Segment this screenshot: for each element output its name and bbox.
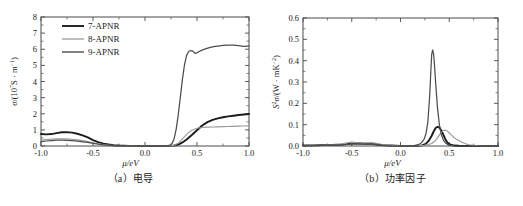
panel-a-conductivity: -1.0-0.50.00.51.0012345678σ/(107S · m−1)… (0, 0, 261, 206)
y-tick-label: 0 (33, 141, 37, 151)
y-tick-label: 2 (33, 109, 37, 119)
y-tick-label: 7 (33, 28, 37, 38)
y-tick-label: 0.0 (288, 141, 299, 151)
plot-frame (303, 18, 498, 146)
x-tick-label: -0.5 (86, 148, 99, 158)
y-tick-label: 6 (33, 44, 37, 54)
y-axis-label: σ/(107S · m−1) (9, 57, 19, 106)
x-axis-label-b: μ/eV (262, 158, 523, 168)
x-axis-label-a: μ/eV (0, 158, 261, 168)
y-tick-label: 0.5 (288, 34, 299, 44)
svg-text:σ/(107S · m−1): σ/(107S · m−1) (9, 57, 19, 106)
y-tick-label: 0.3 (288, 77, 299, 87)
y-tick-label: 5 (33, 60, 37, 70)
panel-caption-b: （b）功率因子 (262, 170, 523, 185)
y-tick-label: 0.4 (288, 56, 299, 66)
y-tick-label: 0.2 (288, 98, 299, 108)
x-tick-label: 1.0 (493, 148, 504, 158)
x-tick-label: 0.5 (444, 148, 455, 158)
x-tick-label: 0.0 (395, 148, 406, 158)
y-tick-label: 0.6 (288, 13, 299, 23)
series-curve-9-apnr (41, 45, 249, 146)
y-tick-label: 1 (33, 125, 37, 135)
legend-label-7-apnr: 7-APNR (88, 21, 120, 31)
y-tick-label: 0.1 (288, 120, 299, 130)
x-tick-label: 1.0 (244, 148, 255, 158)
chart-b-svg: -1.0-0.50.00.51.00.00.10.20.30.40.50.6S2… (262, 0, 523, 166)
panel-b-power-factor: -1.0-0.50.00.51.00.00.10.20.30.40.50.6S2… (262, 0, 523, 206)
panel-caption-a: （a）电导 (0, 170, 261, 185)
y-tick-label: 8 (33, 12, 37, 22)
x-tick-label: -0.5 (345, 148, 358, 158)
chart-a-svg: -1.0-0.50.00.51.0012345678σ/(107S · m−1)… (0, 0, 261, 166)
x-tick-label: 0.5 (192, 148, 203, 158)
legend-label-8-apnr: 8-APNR (88, 34, 120, 44)
y-tick-label: 3 (33, 93, 37, 103)
y-tick-label: 4 (33, 77, 38, 87)
y-axis-label: S2σ/(W · mK−2) (271, 55, 281, 109)
x-tick-label: 0.0 (140, 148, 151, 158)
figure-container: -1.0-0.50.00.51.0012345678σ/(107S · m−1)… (0, 0, 523, 206)
svg-text:S2σ/(W · mK−2): S2σ/(W · mK−2) (271, 55, 281, 109)
series-curve-9-apnr (303, 50, 498, 146)
legend-label-9-apnr: 9-APNR (88, 47, 120, 57)
